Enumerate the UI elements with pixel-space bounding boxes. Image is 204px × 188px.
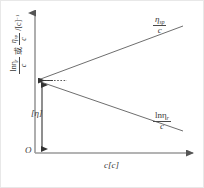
eta-symbol: η bbox=[9, 39, 18, 43]
intrinsic-viscosity-label: [η] bbox=[31, 109, 42, 118]
eta-subscript: sp bbox=[13, 35, 18, 39]
y-axis-label: lnηr c 或 ηsp c /[c]−1 bbox=[8, 0, 30, 114]
origin-label: O bbox=[25, 146, 32, 155]
curve-label-ln-eta-r: lnηr c bbox=[153, 111, 171, 132]
conjunction-or: 或 bbox=[15, 45, 23, 57]
plot-canvas bbox=[1, 1, 204, 188]
fraction-ln-eta-r-over-c: lnηr c bbox=[153, 111, 171, 132]
ln-eta-symbol: lnη bbox=[155, 110, 167, 120]
fraction-denominator: c bbox=[153, 26, 166, 35]
x-axis-label: c[c] bbox=[104, 161, 119, 170]
eta-subscript: r bbox=[167, 115, 169, 121]
eta-subscript: sp bbox=[159, 19, 164, 25]
y-axis-unit-exponent: −1 bbox=[15, 14, 20, 19]
y-axis-unit-base: /[c] bbox=[14, 20, 23, 31]
fraction-eta-sp-over-c: ηsp c bbox=[153, 15, 166, 36]
fraction-denominator: c bbox=[20, 57, 28, 73]
fraction-denominator: c bbox=[20, 33, 28, 45]
y-axis-unit: /[c]−1 bbox=[15, 14, 23, 32]
ln-eta-symbol: lnη bbox=[9, 61, 18, 71]
eta-subscript: r bbox=[13, 59, 18, 61]
viscosity-plot-figure: ηsp c lnηr c c[c] O [η] lnηr c 或 ηsp c /… bbox=[0, 0, 204, 188]
curve-label-eta-sp: ηsp c bbox=[153, 15, 166, 36]
fraction-ln-eta-r-over-c-axis: lnηr c bbox=[10, 57, 28, 73]
fraction-denominator: c bbox=[153, 122, 171, 131]
fraction-eta-sp-over-c-axis: ηsp c bbox=[10, 33, 28, 45]
